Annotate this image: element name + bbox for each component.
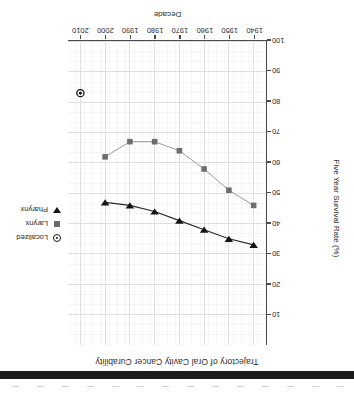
x-axis-title: Decade xyxy=(68,10,267,19)
x-tick-label: 1990 xyxy=(122,26,139,35)
x-tick-label: 1940 xyxy=(246,26,263,35)
ruler-tick xyxy=(187,386,194,387)
chart-legend: LocalizedLarynxPharynx xyxy=(2,203,62,245)
y-tick-label: 50 xyxy=(272,188,294,197)
ruler-tick xyxy=(237,386,244,387)
y-tick-mark xyxy=(267,314,271,315)
x-tick-mark xyxy=(179,35,180,39)
x-tick-mark xyxy=(254,35,255,39)
data-point xyxy=(201,166,207,172)
y-tick-label: 10 xyxy=(272,310,294,319)
y-tick-mark xyxy=(267,253,271,254)
rotated-chart-canvas: Trajectory of Oral Cavity Cancer Curabil… xyxy=(0,0,354,393)
y-tick-mark xyxy=(267,100,271,101)
ruler-tick xyxy=(12,386,19,387)
data-point xyxy=(102,154,108,160)
y-axis-title: Five Year Survival Rate (%) xyxy=(332,129,341,289)
x-tick-label: 1950 xyxy=(221,26,238,35)
triangle-down-icon xyxy=(52,205,62,215)
x-tick-label: 1960 xyxy=(196,26,213,35)
y-tick-label: 70 xyxy=(272,127,294,136)
x-tick-mark xyxy=(229,35,230,39)
ruler-tick xyxy=(287,386,294,387)
y-tick-mark xyxy=(267,161,271,162)
ruler-tick xyxy=(137,386,144,387)
ruler-tick xyxy=(62,386,69,387)
data-point xyxy=(251,203,257,209)
y-tick-mark xyxy=(267,39,271,40)
x-tick-mark xyxy=(80,35,81,39)
ruler-tick xyxy=(337,386,344,387)
data-point xyxy=(200,227,209,233)
data-point xyxy=(127,139,133,145)
data-point xyxy=(77,90,84,97)
plot-area xyxy=(68,40,267,345)
ruler-tick xyxy=(112,386,119,387)
y-tick-label: 40 xyxy=(272,219,294,228)
ruler-tick xyxy=(37,386,44,387)
data-layer xyxy=(68,42,266,345)
y-tick-mark xyxy=(267,131,271,132)
y-tick-mark xyxy=(267,70,271,71)
legend-item-label: Localized xyxy=(16,234,48,243)
data-point xyxy=(249,242,258,248)
y-tick-mark xyxy=(267,283,271,284)
legend-item-label: Pharynx xyxy=(20,206,48,215)
data-point xyxy=(177,148,183,154)
ruler-tick xyxy=(262,386,269,387)
x-tick-label: 1980 xyxy=(147,26,164,35)
y-tick-label: 60 xyxy=(272,158,294,167)
ruler-tick xyxy=(162,386,169,387)
circle-dot-icon xyxy=(52,233,62,243)
chart-title: Trajectory of Oral Cavity Cancer Curabil… xyxy=(0,357,354,367)
y-tick-label: 80 xyxy=(272,97,294,106)
x-tick-mark xyxy=(154,35,155,39)
y-tick-label: 30 xyxy=(272,249,294,258)
legend-item[interactable]: Larynx xyxy=(2,217,62,231)
legend-item-label: Larynx xyxy=(25,220,48,229)
y-tick-mark xyxy=(267,192,271,193)
ruler-strip xyxy=(0,381,354,391)
ruler-tick xyxy=(87,386,94,387)
legend-item[interactable]: Localized xyxy=(2,231,62,245)
x-tick-mark xyxy=(204,35,205,39)
data-point xyxy=(150,208,159,214)
ruler-tick xyxy=(312,386,319,387)
y-tick-mark xyxy=(267,222,271,223)
data-point xyxy=(225,236,234,242)
y-tick-label: 100 xyxy=(272,36,294,45)
chart-page: Trajectory of Oral Cavity Cancer Curabil… xyxy=(0,0,354,393)
x-tick-label: 2010 xyxy=(72,26,89,35)
bottom-dark-bar xyxy=(0,371,354,379)
x-tick-mark xyxy=(130,35,131,39)
ruler-tick xyxy=(212,386,219,387)
y-tick-label: 20 xyxy=(272,280,294,289)
square-icon xyxy=(52,219,62,229)
y-tick-label: 90 xyxy=(272,66,294,75)
data-point xyxy=(226,187,232,193)
data-point xyxy=(175,217,184,223)
x-tick-label: 2000 xyxy=(97,26,114,35)
legend-item[interactable]: Pharynx xyxy=(2,203,62,217)
data-point xyxy=(152,139,158,145)
x-tick-mark xyxy=(105,35,106,39)
x-tick-label: 1970 xyxy=(172,26,189,35)
